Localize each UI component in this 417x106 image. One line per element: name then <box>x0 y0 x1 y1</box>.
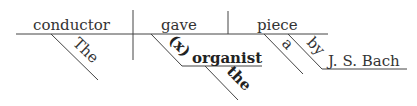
direct-object-modifier-word: a <box>278 34 297 53</box>
preposition-word: by <box>303 33 329 59</box>
indirect-object-word: organist <box>192 49 262 67</box>
direct-object-word: piece <box>257 16 298 34</box>
subject-word: conductor <box>33 16 111 34</box>
indirect-object-marker: (x) <box>165 31 194 60</box>
subject-modifier-word: The <box>69 34 102 67</box>
prepositional-object-word: J. S. Bach <box>326 52 400 70</box>
sentence-diagram: conductor The gave (x) organist the piec… <box>0 0 417 106</box>
